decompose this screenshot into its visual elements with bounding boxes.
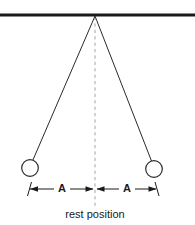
- pendulum-illustration: A A rest position: [0, 0, 195, 225]
- right-pendulum-string: [95, 16, 152, 161]
- left-dimension-arrowhead-end: [86, 186, 94, 192]
- right-dimension-arrowhead-start: [97, 186, 105, 192]
- left-pendulum-bob: [22, 160, 39, 177]
- left-pendulum-string: [33, 16, 96, 161]
- pendulum-diagram: A A rest position: [0, 0, 195, 225]
- left-amplitude-label: A: [58, 182, 66, 194]
- right-dimension-arrowhead-end: [149, 186, 157, 192]
- rest-position-caption: rest position: [65, 208, 124, 220]
- left-dimension-arrowhead-start: [30, 186, 38, 192]
- right-pendulum-bob: [146, 161, 163, 178]
- right-amplitude-label: A: [123, 182, 131, 194]
